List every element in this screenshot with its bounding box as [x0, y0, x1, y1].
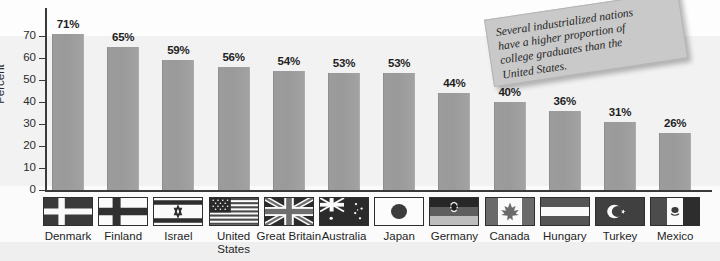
y-tick-mark-60: [39, 58, 46, 59]
bar-value-label-7: 44%: [430, 77, 478, 89]
x-axis-line: [45, 190, 712, 192]
y-tick-label-60: 60: [6, 51, 36, 63]
bar-value-label-2: 59%: [154, 44, 202, 56]
flag-japan: [374, 197, 424, 226]
y-tick-label-20: 20: [6, 139, 36, 151]
bar-value-label-6: 53%: [375, 57, 423, 69]
bar-hungary: [549, 111, 581, 190]
y-tick-label-70: 70: [6, 29, 36, 41]
bar-value-label-10: 31%: [596, 106, 644, 118]
bar-japan: [383, 73, 415, 190]
bar-value-label-8: 40%: [486, 86, 534, 98]
bar-value-label-5: 53%: [320, 57, 368, 69]
bar-united-states: [218, 67, 250, 190]
bar-turkey: [604, 122, 636, 190]
bar-denmark: [52, 34, 84, 190]
flag-mexico: [650, 197, 700, 226]
y-axis-title: Percent: [0, 64, 6, 104]
bar-value-label-4: 54%: [265, 55, 313, 67]
bar-value-label-1: 65%: [99, 31, 147, 43]
x-category-label-mexico: Mexico: [641, 230, 709, 243]
bar-value-label-9: 36%: [541, 95, 589, 107]
flag-canada: [485, 197, 535, 226]
flag-australia: [319, 197, 369, 226]
flag-hungary: [540, 197, 590, 226]
flag-turkey: [595, 197, 645, 226]
y-tick-mark-40: [39, 102, 46, 103]
bar-australia: [328, 73, 360, 190]
y-tick-mark-0: [39, 190, 46, 191]
bar-value-label-0: 71%: [44, 18, 92, 30]
bar-mexico: [659, 133, 691, 190]
flag-israel: [153, 197, 203, 226]
bar-germany: [438, 93, 470, 190]
y-tick-label-30: 30: [6, 117, 36, 129]
bar-israel: [162, 60, 194, 190]
chart-figure: Percent 010203040506070 71%65%59%56%54%5…: [0, 0, 720, 261]
bar-canada: [494, 102, 526, 190]
y-tick-mark-50: [39, 80, 46, 81]
bar-great-britain: [273, 71, 305, 190]
y-tick-label-50: 50: [6, 73, 36, 85]
y-tick-label-0: 0: [6, 183, 36, 195]
flag-finland: [98, 197, 148, 226]
bar-value-label-3: 56%: [210, 51, 258, 63]
flag-great-britain: [264, 197, 314, 226]
y-tick-mark-10: [39, 168, 46, 169]
flag-germany: [429, 197, 479, 226]
y-tick-mark-70: [39, 36, 46, 37]
bar-finland: [107, 47, 139, 190]
background-band-footer: [0, 242, 720, 261]
y-tick-label-40: 40: [6, 95, 36, 107]
flag-denmark: [43, 197, 93, 226]
y-tick-mark-30: [39, 124, 46, 125]
y-tick-label-10: 10: [6, 161, 36, 173]
bar-value-label-11: 26%: [651, 117, 699, 129]
flag-united-states: [209, 197, 259, 226]
y-tick-mark-20: [39, 146, 46, 147]
